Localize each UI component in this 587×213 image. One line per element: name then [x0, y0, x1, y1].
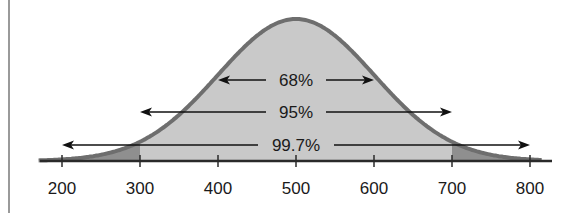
x-tick-label: 600	[360, 179, 388, 198]
x-tick-label: 400	[204, 179, 232, 198]
normal-distribution-chart: 200300400500600700800 68%95%99.7%	[0, 0, 587, 213]
annotation-label: 68%	[279, 71, 313, 90]
annotation-label: 95%	[279, 103, 313, 122]
x-tick-label: 300	[126, 179, 154, 198]
annotation-label: 99.7%	[272, 136, 320, 155]
x-tick-label: 500	[282, 179, 310, 198]
percentage-annotations: 68%95%99.7%	[62, 71, 530, 155]
x-tick-label: 700	[438, 179, 466, 198]
x-tick-label: 200	[48, 179, 76, 198]
x-tick-label: 800	[516, 179, 544, 198]
